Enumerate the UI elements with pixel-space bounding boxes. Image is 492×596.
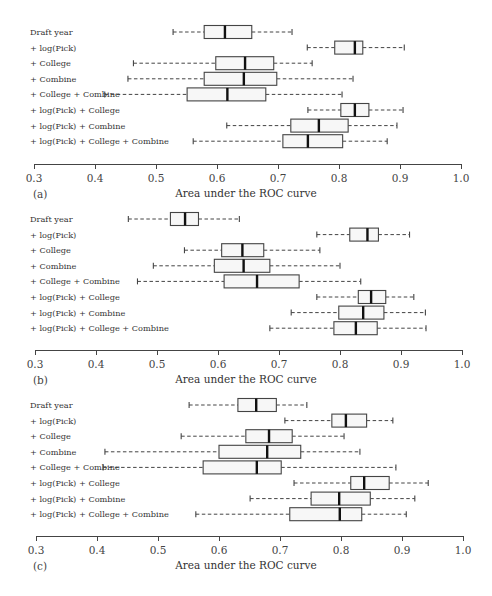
x-axis-line — [36, 536, 463, 537]
boxplot-item — [294, 477, 428, 490]
x-tick-label: 0.4 — [89, 544, 106, 556]
boxplot-item — [103, 461, 396, 474]
iqr-box — [219, 445, 301, 458]
x-tick — [219, 536, 220, 541]
x-tick — [36, 536, 37, 541]
iqr-box — [351, 477, 389, 490]
x-tick-label: 1.0 — [455, 544, 472, 556]
x-tick — [280, 536, 281, 541]
boxplot-area — [0, 0, 492, 596]
x-tick-label: 0.5 — [150, 544, 167, 556]
iqr-box — [203, 461, 281, 474]
x-tick-label: 0.6 — [211, 544, 228, 556]
x-tick — [402, 536, 403, 541]
x-tick — [158, 536, 159, 541]
boxplot-item — [105, 445, 360, 458]
x-tick — [97, 536, 98, 541]
x-tick — [463, 536, 464, 541]
boxplot-item — [196, 508, 406, 521]
boxplot-item — [285, 414, 393, 427]
panel-label: (c) — [33, 560, 47, 572]
iqr-box — [311, 492, 370, 505]
boxplot-item — [181, 430, 344, 443]
iqr-box — [290, 508, 362, 521]
boxplot-item — [250, 492, 415, 505]
x-tick-label: 0.9 — [394, 544, 411, 556]
x-tick-label: 0.7 — [272, 544, 289, 556]
x-tick-label: 0.3 — [28, 544, 45, 556]
x-tick-label: 0.8 — [333, 544, 350, 556]
boxplot-item — [189, 399, 307, 412]
x-axis-title: Area under the ROC curve — [175, 559, 316, 571]
x-tick — [341, 536, 342, 541]
iqr-box — [332, 414, 367, 427]
